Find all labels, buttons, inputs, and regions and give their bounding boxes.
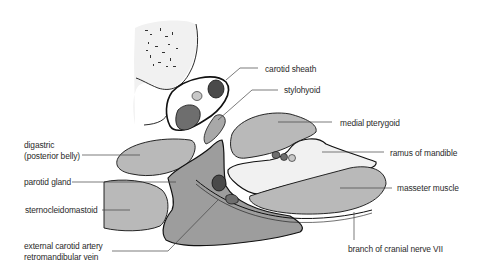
- label-stylohyoid: stylohyoid: [284, 85, 320, 95]
- label-medial-pterygoid: medial pterygoid: [340, 118, 400, 128]
- parotid-region-diagram: [0, 0, 478, 271]
- label-digastric: digastric: [24, 140, 54, 150]
- label-retromandibular-vein: retromandibular vein: [24, 252, 98, 262]
- label-carotid-sheath: carotid sheath: [265, 64, 316, 74]
- label-digastric-posterior-belly: (posterior belly): [24, 151, 80, 161]
- label-ramus-of-mandible: ramus of mandible: [390, 148, 457, 158]
- external-carotid-artery: [226, 194, 239, 204]
- label-sternocleidomastoid: sternocleidomastoid: [25, 205, 98, 215]
- label-masseter-muscle: masseter muscle: [397, 183, 459, 193]
- label-parotid-gland: parotid gland: [24, 177, 71, 187]
- retromandibular-vein: [212, 175, 226, 191]
- sternocleidomastoid-muscle: [104, 180, 168, 231]
- label-branch-of-cranial-nerve-vii: branch of cranial nerve VII: [348, 244, 443, 254]
- label-external-carotid-artery: external carotid artery: [24, 241, 103, 251]
